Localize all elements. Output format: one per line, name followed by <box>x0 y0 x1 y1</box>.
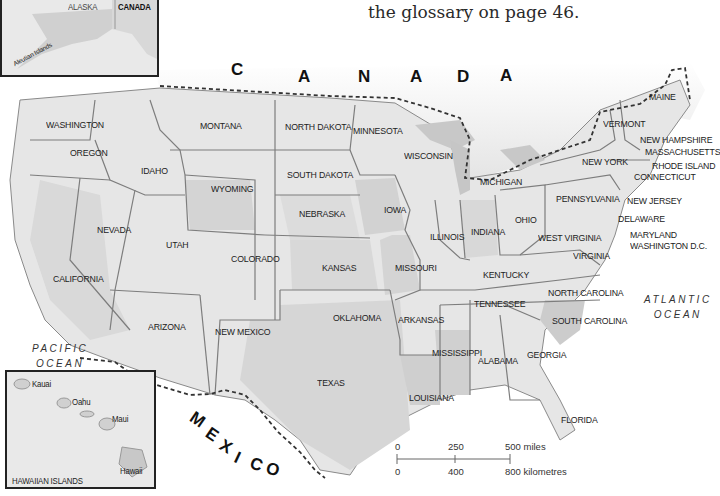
state-label-kansas: KANSAS <box>322 262 356 273</box>
scale-bar: 0 250 500 miles 0 400 800 kilometres <box>395 441 595 481</box>
state-label-mississippi: MISSISSIPPI <box>432 347 482 358</box>
state-label-pennsylvania: PENNSYLVANIA <box>556 193 620 204</box>
state-label-idaho: IDAHO <box>141 165 168 176</box>
state-label-florida: FLORIDA <box>561 414 598 425</box>
state-label-arizona: ARIZONA <box>148 321 186 332</box>
state-label-michigan: MICHIGAN <box>480 176 522 187</box>
state-label-california: CALIFORNIA <box>53 273 104 284</box>
hawaiian-islands-title: HAWAIIAN ISLANDS <box>12 476 83 486</box>
state-label-arkansas: ARKANSAS <box>398 314 444 325</box>
state-label-oklahoma: OKLAHOMA <box>333 312 381 323</box>
state-label-kentucky: KENTUCKY <box>483 269 529 280</box>
state-label-georgia: GEORGIA <box>527 349 567 360</box>
state-label-illinois: ILLINOIS <box>430 231 464 242</box>
state-label-north-carolina: NORTH CAROLINA <box>548 287 623 298</box>
alaska-label: ALASKA <box>68 2 97 12</box>
state-label-south-dakota: SOUTH DAKOTA <box>287 169 353 180</box>
state-label-tennessee: TENNESSEE <box>474 298 525 309</box>
state-label-texas: TEXAS <box>317 377 345 388</box>
state-label-rhode-island: RHODE ISLAND <box>652 160 715 171</box>
state-label-indiana: INDIANA <box>471 226 505 237</box>
state-label-connecticut: CONNECTICUT <box>634 171 696 182</box>
oahu-label: Oahu <box>72 397 90 407</box>
state-label-vermont: VERMONT <box>603 118 645 129</box>
state-label-nebraska: NEBRASKA <box>299 208 345 219</box>
state-label-utah: UTAH <box>166 239 188 250</box>
state-label-west-virginia: WEST VIRGINIA <box>538 232 601 243</box>
state-label-virginia: VIRGINIA <box>573 250 610 261</box>
state-label-delaware: DELAWARE <box>618 213 665 224</box>
state-label-maine: MAINE <box>649 91 676 102</box>
state-label-alabama: ALABAMA <box>478 355 518 366</box>
state-label-new-jersey: NEW JERSEY <box>627 195 682 206</box>
state-label-missouri: MISSOURI <box>395 262 437 273</box>
state-label-oregon: OREGON <box>70 147 108 158</box>
state-label-new-hampshire: NEW HAMPSHIRE <box>640 134 712 145</box>
pacific-ocean-label: PACIFIC OCEAN <box>32 341 88 371</box>
state-label-new-mexico: NEW MEXICO <box>215 326 270 337</box>
state-label-ohio: OHIO <box>515 214 537 225</box>
atlantic-ocean-label: ATLANTIC OCEAN <box>644 292 712 322</box>
state-label-washington: WASHINGTON <box>46 119 104 130</box>
state-label-washington-d-c: WASHINGTON D.C. <box>630 240 707 251</box>
state-label-new-york: NEW YORK <box>582 156 628 167</box>
state-label-iowa: IOWA <box>384 204 406 215</box>
alaska-inset: ALASKA CANADA Aleutian Islands <box>0 0 159 77</box>
kauai-label: Kauai <box>32 379 51 389</box>
maui-label: Maui <box>112 414 128 424</box>
state-label-wyoming: WYOMING <box>211 183 253 194</box>
hawaii-label: Hawaii <box>120 466 142 476</box>
hawaii-inset: Kauai Oahu Maui Hawaii HAWAIIAN ISLANDS <box>5 370 156 489</box>
state-label-nevada: NEVADA <box>97 224 131 235</box>
state-label-wisconsin: WISCONSIN <box>404 150 453 161</box>
canada-inset-label: CANADA <box>118 2 151 12</box>
state-label-massachusetts: MASSACHUSETTS <box>645 146 720 157</box>
state-label-colorado: COLORADO <box>231 253 280 264</box>
state-label-north-dakota: NORTH DAKOTA <box>285 121 351 132</box>
state-label-minnesota: MINNESOTA <box>353 125 403 136</box>
state-label-louisiana: LOUISIANA <box>409 392 454 403</box>
state-label-south-carolina: SOUTH CAROLINA <box>552 315 627 326</box>
state-label-maryland: MARYLAND <box>630 229 677 240</box>
state-label-montana: MONTANA <box>200 120 242 131</box>
